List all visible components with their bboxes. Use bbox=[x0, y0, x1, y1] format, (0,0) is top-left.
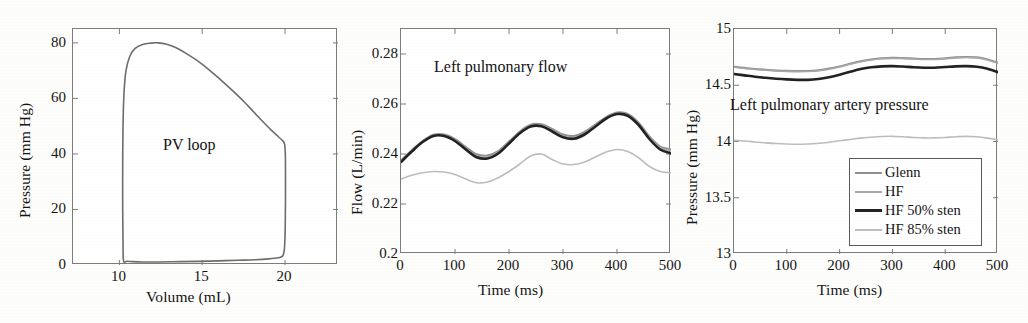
legend-swatch-hf-50-sten bbox=[855, 209, 882, 212]
y-tick-label: 80 bbox=[10, 33, 66, 50]
lpa-pressure-y-axis-label: Pressure (mm Hg) bbox=[683, 110, 701, 225]
flow-inline-title: Left pulmonary flow bbox=[434, 58, 567, 76]
y-tick-label: 0.22 bbox=[342, 195, 398, 212]
y-tick-label: 60 bbox=[10, 89, 66, 106]
y-tick-label: 0.26 bbox=[342, 95, 398, 112]
legend-swatch-hf-85-sten bbox=[855, 229, 882, 231]
legend-label-hf-50-sten: HF 50% sten bbox=[885, 203, 961, 218]
legend-item-hf-50-sten[interactable]: HF 50% sten bbox=[855, 201, 975, 220]
series-legend[interactable]: Glenn HF HF 50% sten HF 85% sten bbox=[849, 158, 982, 246]
lpa-pressure-x-axis-label: Time (ms) bbox=[817, 281, 882, 299]
legend-label-glenn: Glenn bbox=[885, 165, 920, 180]
x-tick-label: 0 bbox=[396, 257, 404, 274]
flow-x-axis-label: Time (ms) bbox=[478, 281, 543, 299]
x-tick-label: 100 bbox=[443, 257, 466, 274]
x-tick-label: 10 bbox=[111, 268, 126, 285]
legend-swatch-glenn bbox=[855, 172, 882, 174]
legend-label-hf: HF bbox=[885, 184, 904, 199]
x-tick-label: 15 bbox=[194, 268, 209, 285]
legend-swatch-hf bbox=[855, 191, 882, 193]
legend-item-glenn[interactable]: Glenn bbox=[855, 163, 975, 182]
x-tick-label: 200 bbox=[827, 257, 850, 274]
y-tick-label: 14 bbox=[675, 132, 731, 149]
y-tick-label: 13.5 bbox=[675, 188, 731, 205]
y-tick-label: 40 bbox=[10, 144, 66, 161]
y-tick-label: 14.5 bbox=[675, 76, 731, 93]
legend-item-hf-85-sten[interactable]: HF 85% sten bbox=[855, 220, 975, 239]
x-tick-label: 400 bbox=[933, 257, 956, 274]
lpa-pressure-inline-title: Left pulmonary artery pressure bbox=[730, 96, 929, 114]
panel-pv-loop: Pressure (mm Hg) Volume (mL) PV loop 020… bbox=[0, 0, 340, 323]
x-tick-label: 200 bbox=[497, 257, 520, 274]
y-tick-label: 0.2 bbox=[342, 245, 398, 262]
legend-item-hf[interactable]: HF bbox=[855, 182, 975, 201]
x-tick-label: 100 bbox=[775, 257, 798, 274]
x-tick-label: 20 bbox=[277, 268, 292, 285]
panel-left-pulmonary-artery-pressure: Pressure (mm Hg) Time (ms) Left pulmonar… bbox=[685, 0, 1028, 323]
x-tick-label: 300 bbox=[551, 257, 574, 274]
figure-canvas: Pressure (mm Hg) Volume (mL) PV loop 020… bbox=[0, 0, 1028, 323]
y-tick-label: 20 bbox=[10, 200, 66, 217]
y-tick-label: 0.24 bbox=[342, 145, 398, 162]
x-tick-label: 500 bbox=[986, 257, 1009, 274]
pv-loop-x-axis-label: Volume (mL) bbox=[146, 288, 231, 306]
panel-left-pulmonary-flow: Flow (L/min) Time (ms) Left pulmonary fl… bbox=[340, 0, 685, 323]
y-tick-label: 13 bbox=[675, 245, 731, 262]
x-tick-label: 0 bbox=[729, 257, 737, 274]
y-tick-label: 0.28 bbox=[342, 45, 398, 62]
y-tick-label: 15 bbox=[675, 20, 731, 37]
pv-loop-inline-title: PV loop bbox=[163, 136, 216, 154]
legend-label-hf-85-sten: HF 85% sten bbox=[885, 222, 961, 237]
y-tick-label: 0 bbox=[10, 256, 66, 273]
x-tick-label: 400 bbox=[605, 257, 628, 274]
x-tick-label: 300 bbox=[880, 257, 903, 274]
